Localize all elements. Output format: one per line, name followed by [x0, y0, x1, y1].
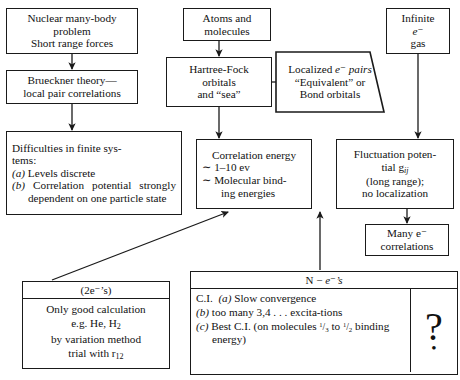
node-correlation-energy[interactable]: Correlation energy ∼ 1–10 ev ∼ Molecular… [196, 139, 312, 209]
node-line: Brueckner theory— [10, 74, 134, 87]
node-line-text: trial with r [68, 347, 115, 359]
node-line: orbitals [170, 76, 268, 89]
two-electron-header: (2e⁻’s) [23, 282, 169, 299]
item-label: (b) [196, 306, 209, 318]
node-line: no localization [340, 187, 450, 200]
node-line: tems: [12, 154, 176, 167]
item-text-2: to [331, 320, 340, 332]
fraction-one-half: 1/2 [343, 322, 352, 332]
node-line: (long range); [340, 175, 450, 188]
n-electron-list: C.I. (a) Slow convergence (b) too many 3… [191, 289, 411, 372]
ci-item-b: (b) too many 3,4 . . . excita-tions [196, 306, 406, 320]
subscript-ij: ij [404, 166, 408, 175]
node-line-text: tial g [381, 161, 404, 173]
node-n-electron-configuration-interaction[interactable]: N − e⁻’s C.I. (a) Slow convergence (b) t… [190, 271, 458, 375]
difficulties-item-a: (a) Levels discrete [12, 167, 176, 180]
header-electron: e⁻’s [325, 274, 342, 286]
item-label: (a) [218, 292, 231, 304]
node-line: gas [390, 37, 446, 50]
node-line: correlations [369, 240, 445, 253]
node-line: Short range forces [10, 37, 134, 50]
node-line: ∼ Molecular bind- [202, 174, 306, 187]
node-line: ∼ 1–10 ev [202, 161, 306, 174]
node-atoms-and-molecules[interactable]: Atoms and molecules [183, 8, 271, 41]
node-difficulties-finite-systems[interactable]: Difficulties in finite sys- tems: (a) Le… [6, 131, 182, 215]
node-line: tial gij [340, 161, 450, 175]
fraction-one-third: 1/3 [319, 322, 328, 332]
node-line: e⁻ [390, 25, 446, 38]
two-electron-body: Only good calculation e.g. He, H2 by var… [23, 299, 169, 365]
item-text-1: Best C.I. (on molecules [211, 320, 316, 332]
question-mark-glyph: ? [425, 310, 443, 344]
node-two-electron-calculations[interactable]: (2e⁻’s) Only good calculation e.g. He, H… [22, 281, 170, 369]
node-many-electron-correlations[interactable]: Many e⁻ correlations [365, 224, 449, 256]
node-line: and “sea” [170, 88, 268, 101]
node-line: Correlation energy [202, 149, 306, 162]
node-line: Many e⁻ [369, 227, 445, 240]
node-line: molecules [187, 25, 267, 38]
question-dot-glyph: • [431, 345, 436, 351]
node-line: problem [10, 25, 134, 38]
ci-lead: C.I. [196, 292, 213, 304]
question-mark-cell: ? • [411, 289, 457, 372]
node-brueckner-theory[interactable]: Brueckner theory— local pair correlation… [6, 70, 138, 104]
node-line: trial with r12 [27, 346, 165, 362]
node-line: Difficulties in finite sys- [12, 142, 176, 155]
node-line: local pair correlations [10, 87, 134, 100]
ci-item-c: (c) Best C.I. (on molecules 1/3 to 1/2 b… [196, 320, 406, 348]
n-electron-columns: C.I. (a) Slow convergence (b) too many 3… [191, 289, 457, 372]
item-text: too many 3,4 . . . excita-tions [212, 306, 343, 318]
node-text-block: Localized e⁻ pairs “Equivalent” or Bond … [274, 63, 386, 101]
ci-item-a: C.I. (a) Slow convergence [196, 292, 406, 306]
node-line: e.g. He, H2 [27, 316, 165, 332]
item-text: Levels discrete [28, 167, 95, 179]
item-label: (b) [12, 179, 25, 191]
node-line: Localized [288, 63, 332, 75]
node-line: Only good calculation [27, 302, 165, 316]
header-prefix: N − [306, 274, 326, 286]
node-line: Hartree-Fock [170, 63, 268, 76]
node-infinite-electron-gas[interactable]: Infinite e⁻ gas [386, 8, 450, 54]
node-hartree-fock-orbitals[interactable]: Hartree-Fock orbitals and “sea” [166, 57, 272, 107]
node-line: e⁻ pairs [335, 63, 372, 75]
flowchart-canvas: Nuclear many-body problem Short range fo… [0, 0, 460, 380]
node-line: Nuclear many-body [10, 12, 134, 25]
arrow-twoe-to-correlation [52, 212, 228, 280]
item-text: Slow convergence [234, 292, 316, 304]
node-line: Infinite [390, 12, 446, 25]
node-fluctuation-potential[interactable]: Fluctuation poten- tial gij (long range)… [336, 139, 454, 209]
node-line: ing energies [202, 187, 306, 200]
subscript-2: 2 [117, 322, 121, 331]
node-line: Fluctuation poten- [340, 148, 450, 161]
node-line: Atoms and [187, 12, 267, 25]
node-line: by variation method [27, 332, 165, 346]
subscript-12: 12 [116, 352, 124, 361]
node-nuclear-many-body-problem[interactable]: Nuclear many-body problem Short range fo… [6, 8, 138, 54]
item-label: (a) [12, 167, 25, 179]
item-text: Correlation potential strongly dependent… [28, 179, 176, 204]
difficulties-item-b: (b) Correlation potential strongly depen… [12, 179, 176, 204]
node-line-text: e.g. He, H [71, 317, 117, 329]
node-localized-electron-pairs[interactable]: Localized e⁻ pairs “Equivalent” or Bond … [274, 50, 386, 114]
node-line: “Equivalent” [295, 76, 353, 88]
n-electron-header: N − e⁻’s [191, 272, 457, 289]
item-label: (c) [196, 320, 208, 332]
